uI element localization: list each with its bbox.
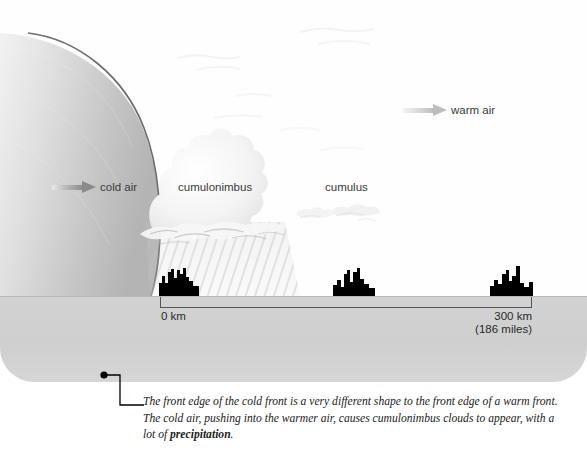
caption-bold-term: precipitation [170,428,231,441]
city-skyline-right [490,266,533,296]
cold-air-arrow-icon [52,181,96,194]
arrow-shaft [403,108,434,113]
caption-text: The front edge of the cold front is a ve… [143,394,563,444]
arrow-head [82,181,96,193]
scale-label-left: 0 km [161,310,186,322]
leader-path [104,375,144,405]
scale-bar-line [160,307,532,308]
label-cold-air: cold air [100,181,137,193]
caption-leader-line [100,371,148,411]
weather-diagram: cold air cumulonimbus cumulus warm air 0… [0,0,587,455]
caption-part-2: . [231,428,234,441]
label-cumulus: cumulus [325,181,368,193]
warm-air-arrow-icon [403,104,447,117]
ground-band [0,296,587,382]
arrow-head [433,104,447,116]
scale-label-right: 300 km (186 miles) [475,310,532,336]
scale-label-right-miles: (186 miles) [475,323,532,336]
cold-air-mass [0,33,160,296]
diagram-canvas [0,0,587,300]
scale-tick-right [531,297,532,308]
label-cumulonimbus: cumulonimbus [178,181,252,193]
label-warm-air: warm air [451,104,495,116]
arrow-shaft [52,185,83,190]
city-skyline-middle [333,268,375,296]
scale-bar [160,297,532,308]
sky-area [0,0,587,300]
scale-tick-left [160,297,161,308]
scale-label-right-km: 300 km [475,310,532,323]
cirrus-wisps [178,28,374,150]
cumulus-clouds [296,204,380,221]
